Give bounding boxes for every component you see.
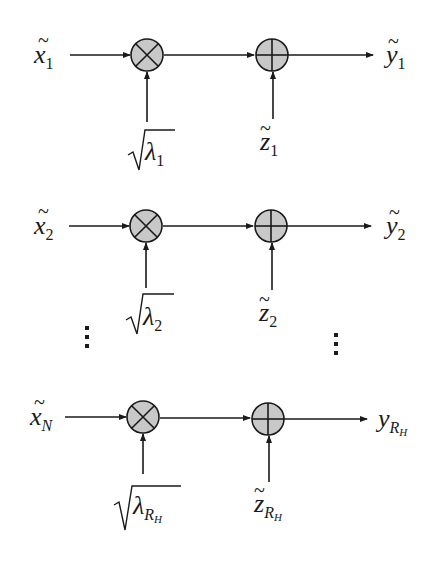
svg-text:λRH: λRH (132, 491, 163, 525)
noise-label-n: zRH (253, 489, 283, 523)
input-label-2: x2 (33, 211, 54, 243)
output-label-1: y1 (383, 40, 406, 72)
channel-row-2: ~ x2 λ2 ~ z2 ~ y2 (33, 200, 406, 334)
channel-row-n: ~ xN λRH ~ zRH yRH (29, 391, 408, 530)
channel-diagram: x1 ~ λ1 ~ z1 ~ y1 ~ (0, 0, 438, 562)
adder-node-n (252, 403, 284, 435)
ellipsis-right (334, 333, 338, 355)
input-label-n: xN (29, 402, 54, 434)
gain-label-n: λRH (114, 486, 181, 530)
multiplier-node-n (127, 401, 159, 433)
svg-text:λ1: λ1 (144, 137, 164, 169)
svg-text:λ2: λ2 (142, 302, 162, 334)
channel-row-1: x1 ~ λ1 ~ z1 ~ y1 (33, 29, 406, 170)
adder-node-1 (256, 39, 288, 71)
gain-label-1: λ1 (128, 130, 175, 170)
adder-node-2 (255, 210, 287, 242)
output-label-n: yRH (375, 404, 408, 438)
multiplier-node-1 (131, 39, 163, 71)
gain-label-2: λ2 (126, 294, 174, 334)
noise-label-2: z2 (258, 298, 277, 330)
ellipsis-left (85, 326, 89, 348)
noise-label-1: z1 (259, 127, 278, 159)
input-tilde-1: ~ (38, 29, 49, 51)
output-label-2: y2 (383, 211, 406, 243)
multiplier-node-2 (130, 210, 162, 242)
